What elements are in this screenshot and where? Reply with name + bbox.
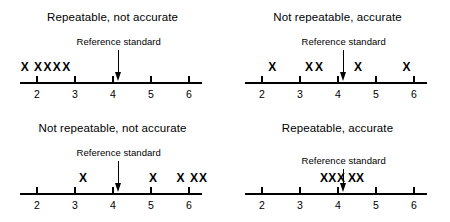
- arrow-head: [340, 72, 346, 81]
- axis-tick: [74, 76, 76, 83]
- measurement-x-mark: X: [34, 61, 42, 73]
- axis-tick-label: 6: [186, 199, 192, 211]
- measurement-x-mark: X: [348, 172, 356, 184]
- axis-tick-label: 6: [411, 199, 417, 211]
- axis-tick: [261, 76, 263, 83]
- axis-tick: [413, 187, 415, 194]
- arrow-head: [115, 183, 121, 192]
- measurement-x-mark: X: [402, 61, 410, 73]
- axis-tick: [150, 76, 152, 83]
- panel-title: Repeatable, not accurate: [0, 11, 225, 23]
- measurement-x-mark: X: [53, 61, 61, 73]
- axis-line: [20, 193, 202, 195]
- axis-tick-label: 2: [34, 88, 40, 100]
- measurement-x-mark: X: [199, 172, 207, 184]
- axis-line: [245, 193, 427, 195]
- measurement-x-mark: X: [62, 61, 70, 73]
- panel-title: Not repeatable, accurate: [225, 11, 450, 23]
- axis-tick: [375, 76, 377, 83]
- panel-repeatable-accurate: Repeatable, accurate 23456XXXXXReference…: [225, 111, 450, 222]
- measurement-x-mark: X: [354, 61, 362, 73]
- accuracy-precision-figure: { "figure": { "title_text": "", "referen…: [0, 0, 450, 222]
- axis-tick: [337, 187, 339, 194]
- axis-tick-label: 5: [373, 199, 379, 211]
- axis-tick: [261, 187, 263, 194]
- axis-tick-label: 6: [186, 88, 192, 100]
- axis-line: [245, 82, 427, 84]
- panel-not-repeatable-accurate: Not repeatable, accurate 23456XXXXXRefer…: [225, 0, 450, 111]
- axis-tick-label: 2: [34, 199, 40, 211]
- axis-tick: [74, 187, 76, 194]
- axis-tick-label: 3: [297, 88, 303, 100]
- measurement-x-mark: X: [44, 61, 52, 73]
- axis-tick: [188, 76, 190, 83]
- panel-not-repeatable-not-accurate: Not repeatable, not accurate 23456XXXXXR…: [0, 111, 225, 222]
- axis-tick: [299, 187, 301, 194]
- reference-standard-label: Reference standard: [77, 147, 161, 158]
- axis-tick-label: 4: [110, 88, 116, 100]
- arrow-head: [340, 183, 346, 192]
- axis-tick: [299, 76, 301, 83]
- axis-tick-label: 2: [259, 199, 265, 211]
- axis-tick-label: 3: [297, 199, 303, 211]
- reference-standard-label: Reference standard: [77, 36, 161, 47]
- measurement-x-mark: X: [320, 172, 328, 184]
- axis-tick-label: 4: [110, 199, 116, 211]
- measurement-x-mark: X: [190, 172, 198, 184]
- measurement-x-mark: X: [21, 61, 29, 73]
- axis-tick-label: 5: [373, 88, 379, 100]
- axis-tick-label: 4: [335, 88, 341, 100]
- panel-title: Not repeatable, not accurate: [0, 122, 225, 134]
- arrow-shaft: [118, 50, 120, 72]
- measurement-x-mark: X: [305, 61, 313, 73]
- measurement-x-mark: X: [177, 172, 185, 184]
- axis-tick: [36, 76, 38, 83]
- axis-tick-label: 5: [148, 88, 154, 100]
- axis-tick-label: 3: [72, 199, 78, 211]
- axis-tick: [188, 187, 190, 194]
- axis-tick: [413, 76, 415, 83]
- measurement-x-mark: X: [328, 172, 336, 184]
- axis-tick-label: 4: [335, 199, 341, 211]
- axis-tick-label: 6: [411, 88, 417, 100]
- measurement-x-mark: X: [268, 61, 276, 73]
- panel-title: Repeatable, accurate: [225, 122, 450, 134]
- axis-tick-label: 5: [148, 199, 154, 211]
- arrow-head: [115, 72, 121, 81]
- measurement-x-mark: X: [149, 172, 157, 184]
- reference-standard-label: Reference standard: [302, 36, 386, 47]
- axis-tick-label: 3: [72, 88, 78, 100]
- axis-tick: [150, 187, 152, 194]
- axis-tick: [337, 76, 339, 83]
- arrow-shaft: [118, 161, 120, 183]
- panel-repeatable-not-accurate: Repeatable, not accurate 23456XXXXXRefer…: [0, 0, 225, 111]
- reference-standard-label: Reference standard: [302, 155, 386, 166]
- axis-tick: [112, 76, 114, 83]
- axis-tick-label: 2: [259, 88, 265, 100]
- axis-tick: [375, 187, 377, 194]
- arrow-shaft: [343, 169, 345, 183]
- measurement-x-mark: X: [79, 172, 87, 184]
- measurement-x-mark: X: [315, 61, 323, 73]
- arrow-shaft: [343, 50, 345, 72]
- axis-tick: [36, 187, 38, 194]
- axis-line: [20, 82, 202, 84]
- axis-tick: [112, 187, 114, 194]
- measurement-x-mark: X: [356, 172, 364, 184]
